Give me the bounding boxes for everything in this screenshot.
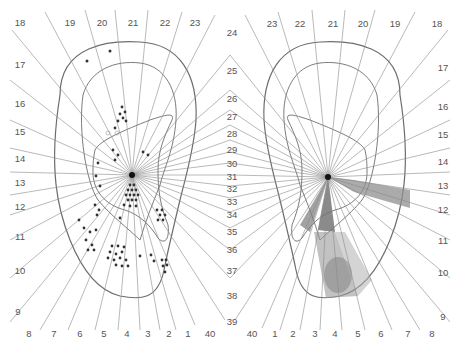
right-ear (230, 10, 450, 330)
label-17: 17 (15, 59, 26, 70)
label-13: 13 (438, 180, 449, 191)
left-ear-center-point (129, 172, 135, 178)
center-labels: 24 25 26 27 28 29 30 31 32 33 34 35 36 3… (227, 27, 238, 327)
label-18: 18 (432, 18, 443, 29)
label-32: 32 (227, 183, 238, 194)
label-6: 6 (378, 328, 383, 339)
label-17: 17 (438, 62, 449, 73)
label-30: 30 (227, 158, 238, 169)
label-15: 15 (438, 129, 449, 140)
label-16: 16 (15, 98, 26, 109)
label-1: 1 (185, 328, 190, 339)
right-ear-top-labels: 23 22 21 20 19 18 (267, 18, 443, 29)
label-27: 27 (227, 111, 238, 122)
label-15: 15 (15, 126, 26, 137)
label-7: 7 (405, 328, 410, 339)
label-22: 22 (295, 18, 306, 29)
left-ear (10, 10, 230, 330)
label-16: 16 (438, 101, 449, 112)
label-26: 26 (227, 93, 238, 104)
left-ear-top-labels: 18 19 20 21 22 23 (15, 17, 201, 28)
label-10: 10 (438, 267, 449, 278)
label-4: 4 (332, 328, 337, 339)
label-40: 40 (205, 328, 216, 339)
label-9: 9 (440, 311, 445, 322)
label-22: 22 (160, 17, 171, 28)
label-25: 25 (227, 65, 238, 76)
label-35: 35 (227, 226, 238, 237)
label-36: 36 (227, 244, 238, 255)
label-2: 2 (166, 328, 171, 339)
auricular-diagram: 24 25 26 27 28 29 30 31 32 33 34 35 36 3… (0, 0, 460, 343)
label-20: 20 (358, 18, 369, 29)
label-14: 14 (438, 156, 449, 167)
label-3: 3 (312, 328, 317, 339)
label-1: 1 (272, 328, 277, 339)
label-24: 24 (227, 27, 238, 38)
label-14: 14 (15, 153, 26, 164)
left-ear-antihelix (81, 62, 176, 240)
label-39: 39 (227, 316, 238, 327)
label-6: 6 (77, 328, 82, 339)
label-31: 31 (227, 171, 238, 182)
left-ear-bottom-labels: 8 7 6 5 4 3 2 1 40 (26, 328, 215, 339)
label-4: 4 (124, 328, 129, 339)
label-5: 5 (101, 328, 106, 339)
label-34: 34 (227, 209, 238, 220)
label-19: 19 (390, 18, 401, 29)
label-10: 10 (15, 265, 26, 276)
label-21: 21 (128, 17, 139, 28)
left-ear-rays (10, 10, 230, 330)
label-19: 19 (65, 17, 76, 28)
label-8: 8 (26, 328, 31, 339)
label-33: 33 (227, 196, 238, 207)
label-20: 20 (97, 17, 108, 28)
label-23: 23 (267, 18, 278, 29)
right-ear-side-labels: 17 16 15 14 13 12 11 10 9 (438, 62, 449, 322)
label-8: 8 (429, 328, 434, 339)
label-37: 37 (227, 265, 238, 276)
label-9: 9 (15, 306, 20, 317)
label-12: 12 (15, 201, 26, 212)
left-ear-dots (78, 50, 169, 274)
label-7: 7 (51, 328, 56, 339)
label-13: 13 (15, 177, 26, 188)
label-3: 3 (145, 328, 150, 339)
label-12: 12 (438, 204, 449, 215)
right-ear-bottom-labels: 40 1 2 3 4 5 6 7 8 (247, 328, 435, 339)
right-ear-center-point (325, 174, 331, 180)
label-2: 2 (290, 328, 295, 339)
label-29: 29 (227, 144, 238, 155)
label-11: 11 (15, 231, 25, 242)
label-28: 28 (227, 128, 238, 139)
diagram-canvas: 24 25 26 27 28 29 30 31 32 33 34 35 36 3… (0, 0, 460, 343)
label-38: 38 (227, 290, 238, 301)
label-11: 11 (438, 235, 448, 246)
label-23: 23 (190, 17, 201, 28)
label-18: 18 (15, 17, 26, 28)
label-21: 21 (328, 18, 339, 29)
left-ear-side-labels: 17 16 15 14 13 12 11 10 9 (15, 59, 26, 317)
label-5: 5 (355, 328, 360, 339)
label-40: 40 (247, 328, 258, 339)
